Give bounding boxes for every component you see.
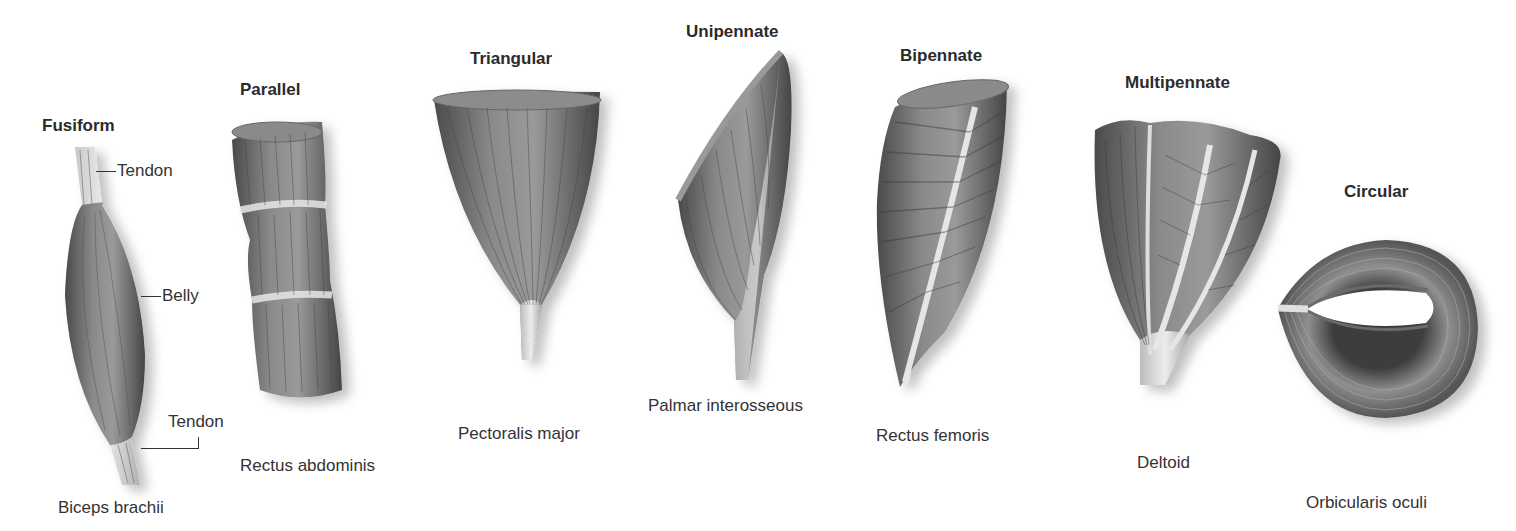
example-pectoralis-major: Pectoralis major bbox=[458, 424, 580, 444]
callout-tendon-bottom: Tendon bbox=[168, 412, 224, 432]
example-rectus-femoris: Rectus femoris bbox=[876, 426, 989, 446]
example-rectus-abdominis: Rectus abdominis bbox=[240, 456, 375, 476]
callout-belly: Belly bbox=[162, 286, 199, 306]
circular-muscle-illustration bbox=[1276, 238, 1481, 420]
example-deltoid: Deltoid bbox=[1137, 453, 1190, 473]
bipennate-muscle-illustration bbox=[875, 82, 1015, 392]
shape-title-parallel: Parallel bbox=[240, 80, 301, 100]
example-palmar-interosseous: Palmar interosseous bbox=[648, 396, 803, 416]
belly-leader-line bbox=[141, 296, 161, 297]
shape-title-bipennate: Bipennate bbox=[900, 46, 982, 66]
multipennate-muscle-illustration bbox=[1090, 115, 1285, 395]
triangular-muscle-illustration bbox=[432, 90, 602, 365]
tendon-bottom-leader-line bbox=[141, 448, 199, 449]
shape-title-triangular: Triangular bbox=[470, 49, 552, 69]
unipennate-muscle-illustration bbox=[676, 50, 796, 385]
shape-title-multipennate: Multipennate bbox=[1125, 73, 1230, 93]
parallel-muscle-illustration bbox=[230, 120, 350, 400]
fusiform-muscle-illustration bbox=[60, 145, 170, 490]
shape-title-fusiform: Fusiform bbox=[42, 116, 115, 136]
shape-title-circular: Circular bbox=[1344, 182, 1408, 202]
tendon-bottom-leader-tick bbox=[198, 437, 199, 449]
tendon-top-leader-line bbox=[96, 171, 116, 172]
example-biceps-brachii: Biceps brachii bbox=[58, 498, 164, 518]
example-orbicularis-oculi: Orbicularis oculi bbox=[1306, 493, 1427, 513]
callout-tendon-top: Tendon bbox=[117, 161, 173, 181]
shape-title-unipennate: Unipennate bbox=[686, 22, 779, 42]
